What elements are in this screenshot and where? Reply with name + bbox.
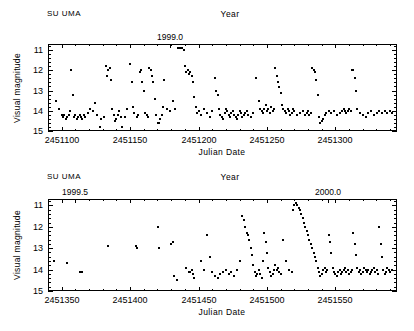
data-point	[89, 108, 91, 110]
y-tick-label-top: 13	[33, 86, 46, 96]
y-tick-minor-right-top	[394, 119, 397, 120]
x-tick-minor-bottom	[212, 289, 213, 291]
x-tick-minor-bottom	[281, 289, 282, 291]
y-tick-minor-right-top	[394, 86, 397, 87]
data-point	[306, 230, 308, 232]
data-point	[370, 110, 372, 112]
data-point	[185, 267, 187, 269]
x-tick-minor-bottom	[240, 289, 241, 291]
y-tick-major-top	[48, 111, 53, 112]
y-tick-label-top: 11	[34, 45, 46, 55]
data-point	[107, 245, 109, 247]
x-tick-minor-bottom	[308, 289, 309, 291]
data-point	[166, 108, 168, 110]
y-tick-minor-bottom	[48, 261, 51, 262]
data-point	[378, 110, 380, 112]
data-point	[94, 102, 96, 104]
data-point	[58, 108, 60, 110]
data-point	[236, 269, 238, 271]
data-point	[311, 247, 313, 249]
data-point	[240, 112, 242, 114]
data-point	[340, 273, 342, 275]
x-tick-label-top: 2451100	[45, 135, 79, 145]
data-point	[318, 271, 320, 273]
data-point	[296, 114, 298, 116]
y-tick-minor-top	[48, 86, 51, 87]
y-tick-major-bottom	[48, 270, 53, 271]
data-point	[159, 118, 161, 120]
y-tick-minor-top	[48, 78, 51, 79]
y-tick-label-bottom: 15	[33, 286, 46, 296]
x-tick-minor-top-bottom	[281, 199, 282, 201]
data-point	[262, 112, 264, 114]
data-point	[118, 110, 120, 112]
data-point	[384, 273, 386, 275]
data-point	[163, 79, 165, 81]
data-point	[322, 269, 324, 271]
x-axis-title-top: Julian Date	[199, 147, 246, 157]
x-tick-minor-top-top	[308, 44, 309, 46]
data-point	[246, 110, 248, 112]
x-tick-major-top	[267, 127, 268, 131]
x-tick-label-top: 2451300	[317, 135, 352, 145]
x-tick-major-bottom	[267, 287, 268, 291]
x-tick-minor-top-bottom	[308, 199, 309, 201]
data-point	[129, 63, 131, 65]
data-point	[152, 81, 154, 83]
y-tick-minor-right-top	[394, 82, 397, 83]
y-tick-minor-top	[48, 103, 51, 104]
data-point	[99, 126, 101, 128]
x-tick-minor-top	[75, 129, 76, 131]
y-tick-major-right-top	[392, 111, 397, 112]
data-point	[351, 269, 353, 271]
x-tick-minor-top	[185, 129, 186, 131]
y-tick-major-bottom	[48, 205, 53, 206]
x-tick-minor-top	[253, 129, 254, 131]
data-point	[374, 271, 376, 273]
x-tick-minor-top	[240, 129, 241, 131]
data-point	[217, 277, 219, 279]
year-tick-top	[170, 44, 171, 48]
y-tick-label-top: 12	[33, 65, 46, 75]
data-point	[337, 271, 339, 273]
y-tick-minor-right-bottom	[394, 265, 397, 266]
data-point	[273, 108, 275, 110]
data-point	[176, 279, 178, 281]
data-point	[244, 112, 246, 114]
y-tick-minor-bottom	[48, 218, 51, 219]
y-tick-minor-right-bottom	[394, 214, 397, 215]
x-tick-minor-top	[349, 129, 350, 131]
y-tick-minor-right-top	[394, 46, 397, 47]
year-tick-bottom	[75, 199, 76, 203]
data-point	[339, 269, 341, 271]
y-tick-minor-right-bottom	[394, 201, 397, 202]
y-tick-minor-right-top	[394, 103, 397, 104]
x-tick-major-top-bottom	[199, 199, 200, 203]
data-point	[225, 269, 227, 271]
data-point	[367, 269, 369, 271]
y-tick-major-top	[48, 131, 53, 132]
y-tick-major-right-bottom	[392, 270, 397, 271]
x-tick-minor-top-bottom	[157, 199, 158, 201]
data-point	[136, 247, 138, 249]
data-point	[233, 275, 235, 277]
data-point	[115, 118, 117, 120]
y-tick-label-bottom: 11	[34, 200, 46, 210]
x-tick-minor-top	[171, 129, 172, 131]
x-tick-minor-bottom	[349, 289, 350, 291]
data-point	[276, 75, 278, 77]
data-point	[219, 273, 221, 275]
x-tick-major-top-bottom	[335, 199, 336, 203]
y-tick-minor-right-bottom	[394, 261, 397, 262]
data-point	[105, 65, 107, 67]
data-point	[215, 90, 217, 92]
data-point	[300, 213, 302, 215]
data-point	[355, 90, 357, 92]
x-tick-minor-top	[363, 129, 364, 131]
y-tick-minor-top	[48, 82, 51, 83]
data-point	[251, 254, 253, 256]
x-tick-minor-top-bottom	[390, 199, 391, 201]
x-tick-major-bottom	[199, 287, 200, 291]
data-point	[318, 116, 320, 118]
data-point	[270, 275, 272, 277]
